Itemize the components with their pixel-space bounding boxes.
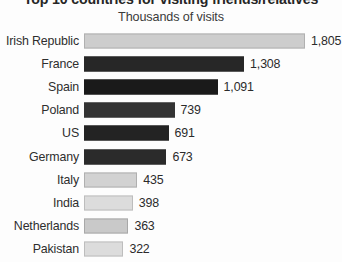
bar-row: Irish Republic1,805	[0, 29, 342, 52]
bar-row: Netherlands363	[0, 215, 342, 238]
bar	[84, 103, 175, 118]
category-label: Germany	[0, 150, 79, 164]
value-label: 691	[175, 126, 195, 140]
value-label: 435	[143, 173, 163, 187]
category-label: Pakistan	[0, 242, 79, 256]
bar-track	[84, 219, 128, 234]
category-label: India	[0, 196, 79, 210]
bar-track	[84, 126, 169, 141]
bar-track	[84, 195, 133, 210]
value-label: 363	[134, 219, 154, 233]
bar-track	[84, 149, 166, 164]
bar	[84, 56, 244, 71]
bar	[84, 219, 128, 234]
bar-row: India398	[0, 191, 342, 214]
category-label: Netherlands	[0, 219, 79, 233]
value-label: 1,805	[311, 34, 341, 48]
bar-row: Poland739	[0, 99, 342, 122]
value-label: 322	[129, 242, 149, 256]
bar	[84, 149, 166, 164]
bar-row: France1,308	[0, 52, 342, 75]
bar-row: Italy435	[0, 168, 342, 191]
plot-area: Irish Republic1,805France1,308Spain1,091…	[0, 29, 342, 262]
bar-row: Germany673	[0, 145, 342, 168]
bar-track	[84, 172, 137, 187]
bar-row: US691	[0, 122, 342, 145]
chart-title: Top 10 countries for visiting friends/re…	[0, 0, 342, 7]
bar-track	[84, 242, 123, 257]
bar-track	[84, 79, 218, 94]
value-label: 398	[139, 196, 159, 210]
category-label: Spain	[0, 80, 79, 94]
bar	[84, 242, 123, 257]
value-label: 1,308	[250, 57, 280, 71]
category-label: Italy	[0, 173, 79, 187]
bar-track	[84, 56, 244, 71]
category-label: Irish Republic	[0, 34, 79, 48]
bar	[84, 79, 218, 94]
value-label: 739	[181, 103, 201, 117]
bar-track	[84, 103, 175, 118]
bar-track	[84, 33, 305, 48]
value-label: 1,091	[224, 80, 254, 94]
bar	[84, 172, 137, 187]
bar-chart: Top 10 countries for visiting friends/re…	[0, 0, 342, 262]
category-label: Poland	[0, 103, 79, 117]
bar-row: Pakistan322	[0, 238, 342, 261]
bar-row: Spain1,091	[0, 75, 342, 98]
bar	[84, 126, 169, 141]
category-label: France	[0, 57, 79, 71]
bar	[84, 195, 133, 210]
category-label: US	[0, 126, 79, 140]
value-label: 673	[172, 150, 192, 164]
bar	[84, 33, 305, 48]
chart-subtitle: Thousands of visits	[0, 10, 342, 24]
